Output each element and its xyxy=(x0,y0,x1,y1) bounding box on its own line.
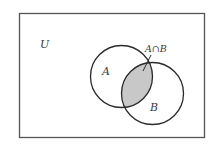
set-a-label: A xyxy=(101,65,110,78)
universe-rectangle xyxy=(20,14,205,138)
venn-diagram: U A B A∩B xyxy=(0,0,220,145)
intersection-label: A∩B xyxy=(144,43,167,54)
universe-label: U xyxy=(40,38,50,51)
set-b-label: B xyxy=(149,101,158,114)
